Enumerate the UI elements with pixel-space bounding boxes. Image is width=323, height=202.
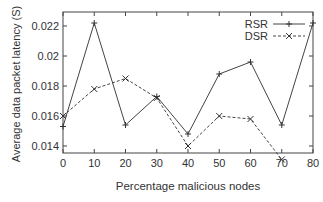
y-tick-label: 0.016 (31, 110, 59, 122)
y-tick-label: 0.014 (31, 140, 59, 152)
y-axis-label: Average data packet latency (S) (10, 6, 22, 162)
x-tick-label: 20 (119, 157, 131, 169)
x-axis-label: Percentage malicious nodes (116, 180, 261, 192)
latency-line-chart: 01020304050607080 0.0140.0160.0180.020.0… (0, 0, 323, 202)
x-tick-label: 40 (182, 157, 194, 169)
y-tick-label: 0.02 (38, 50, 59, 62)
series-lines (60, 20, 316, 163)
x-tick-label: 10 (88, 157, 100, 169)
x-tick-label: 60 (244, 157, 256, 169)
legend-label-dsr: DSR (245, 30, 268, 42)
y-tick-label: 0.018 (31, 80, 59, 92)
y-axis-ticks: 0.0140.0160.0180.020.022 (31, 20, 313, 152)
legend: RSRDSR (245, 18, 305, 42)
x-tick-label: 30 (151, 157, 163, 169)
x-tick-label: 80 (307, 157, 319, 169)
legend-label-rsr: RSR (245, 18, 268, 30)
y-tick-label: 0.022 (31, 20, 59, 32)
x-tick-label: 0 (60, 157, 66, 169)
x-tick-label: 50 (213, 157, 225, 169)
series-rsr (60, 20, 316, 137)
series-dsr (60, 76, 285, 163)
